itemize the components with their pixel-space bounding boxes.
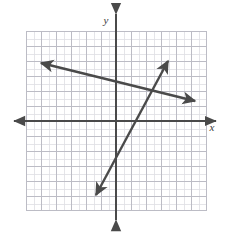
coordinate-plane-figure: x y [0,0,231,232]
x-axis-label: x [209,121,215,133]
y-axis-label: y [103,14,109,26]
graph-canvas: x y [0,0,231,232]
